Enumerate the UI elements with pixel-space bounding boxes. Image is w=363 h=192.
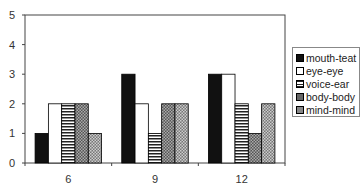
legend-label: mind-mind <box>306 104 355 116</box>
y-tick-label: 3 <box>9 68 15 80</box>
swatch-icon <box>296 67 304 75</box>
x-tick-label: 12 <box>236 173 248 185</box>
bar-body-body-9 <box>162 104 175 163</box>
bar-eye-eye-6 <box>48 104 61 163</box>
x-axis: 6912 <box>25 163 285 185</box>
legend-label: eye-eye <box>306 65 343 77</box>
swatch-icon <box>296 106 304 114</box>
legend: mouth-teat eye-eye voice-ear body-body m… <box>292 47 360 117</box>
x-tick-label: 6 <box>65 173 71 185</box>
x-tick-label: 9 <box>152 173 158 185</box>
bar-mind-mind-6 <box>88 133 101 163</box>
y-axis: 012345 <box>9 9 25 169</box>
legend-label: voice-ear <box>306 78 349 90</box>
legend-label: body-body <box>306 91 355 103</box>
bar-eye-eye-9 <box>135 104 148 163</box>
bar-body-body-6 <box>75 104 88 163</box>
y-tick-label: 5 <box>9 9 15 21</box>
y-tick-label: 0 <box>9 157 15 169</box>
swatch-icon <box>296 80 304 88</box>
legend-label: mouth-teat <box>306 52 356 64</box>
bar-eye-eye-12 <box>222 74 235 163</box>
legend-item-mind-mind: mind-mind <box>296 103 359 116</box>
y-tick-label: 4 <box>9 39 15 51</box>
swatch-icon <box>296 93 304 101</box>
bar-voice-ear-12 <box>235 104 248 163</box>
legend-item-voice-ear: voice-ear <box>296 77 359 90</box>
bar-voice-ear-6 <box>62 104 75 163</box>
bar-mind-mind-12 <box>262 104 275 163</box>
legend-item-body-body: body-body <box>296 90 359 103</box>
y-tick-label: 1 <box>9 127 15 139</box>
bar-mouth-teat-9 <box>122 74 135 163</box>
legend-item-eye-eye: eye-eye <box>296 64 359 77</box>
bar-mouth-teat-6 <box>35 133 48 163</box>
bar-voice-ear-9 <box>148 133 161 163</box>
bars <box>35 74 275 163</box>
y-tick-label: 2 <box>9 98 15 110</box>
bar-body-body-12 <box>248 133 261 163</box>
legend-item-mouth-teat: mouth-teat <box>296 51 359 64</box>
swatch-icon <box>296 54 304 62</box>
bar-mind-mind-9 <box>175 104 188 163</box>
bar-mouth-teat-12 <box>208 74 221 163</box>
